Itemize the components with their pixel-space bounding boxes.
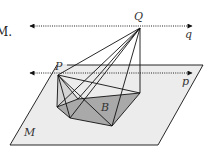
label-b: B (100, 101, 109, 114)
label-q-point: Q (134, 10, 143, 23)
prefix-text: M. (0, 25, 12, 39)
label-m: M (23, 126, 36, 139)
label-p-line: p (182, 75, 189, 88)
label-p-point: P (54, 60, 63, 73)
label-q-line: q (185, 28, 192, 41)
geometry-figure: M. Q q P p B M (0, 0, 213, 153)
